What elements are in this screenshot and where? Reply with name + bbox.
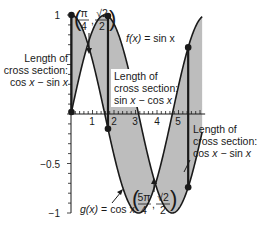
svg-text:cross section:: cross section: xyxy=(4,64,68,76)
y-tick-label-neg-half: −0.5 xyxy=(40,159,60,170)
svg-text:Length of: Length of xyxy=(114,70,158,82)
svg-text:sin x − cos x: sin x − cos x xyxy=(114,94,173,106)
y-denominator: 2 xyxy=(99,20,105,32)
svg-text:cross section:: cross section: xyxy=(193,135,257,147)
y-tick-label-1: 1 xyxy=(54,10,60,21)
right-paren: ) xyxy=(170,186,177,211)
f-curve-label: f(x)= sin x xyxy=(126,32,176,44)
y-numerator: √2 xyxy=(96,7,108,19)
svg-text:Length of: Length of xyxy=(24,52,68,64)
right-paren: ) xyxy=(109,6,116,31)
cross-section-endpoint xyxy=(185,44,192,51)
x-denominator: 4 xyxy=(81,20,87,32)
y-numerator: √2 xyxy=(157,191,169,203)
cross-section-label-left: Length of cross section: cos x − sin x xyxy=(4,52,69,88)
x-tick-label-4: 4 xyxy=(154,116,160,127)
area-between-curves-diagram: 1 −0.5 −1 1 2 3 4 5 f(x)= sin x g(x)= co… xyxy=(0,0,261,229)
y-denominator: 2 xyxy=(160,204,166,216)
svg-text:cos x − sin x: cos x − sin x xyxy=(193,147,252,159)
cross-section-label-right: Length of cross section: cos x − sin x xyxy=(193,123,257,159)
g-curve-label: g(x)= cos x xyxy=(80,203,135,215)
x-tick-label-5: 5 xyxy=(175,116,181,127)
y-tick-label-neg-1: −1 xyxy=(49,208,61,219)
x-tick-label-3: 3 xyxy=(132,116,138,127)
x-tick-label-2: 2 xyxy=(111,116,117,127)
x-denominator: 4 xyxy=(141,204,147,216)
x-numerator: π xyxy=(80,7,87,19)
comma: , xyxy=(152,198,155,210)
x-numerator: 5π xyxy=(137,191,150,203)
cross-section-endpoint xyxy=(68,109,75,116)
x-tick-label-1: 1 xyxy=(89,116,95,127)
g-label-arrowhead-icon xyxy=(117,189,123,195)
svg-text:cross section:: cross section: xyxy=(114,82,178,94)
comma: , xyxy=(91,14,94,26)
cross-section-endpoint xyxy=(185,184,192,191)
svg-text:cos x − sin x: cos x − sin x xyxy=(10,76,69,88)
svg-text:Length of: Length of xyxy=(193,123,237,135)
